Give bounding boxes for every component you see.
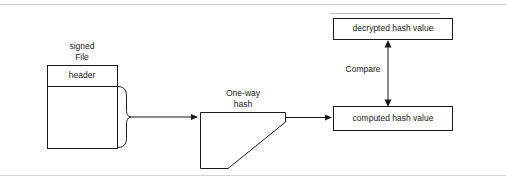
oneway-hash-label-line2: hash	[234, 99, 252, 109]
oneway-hash-label-line1: One-way	[226, 88, 260, 98]
computed-hash-value-label: computed hash value	[335, 113, 451, 124]
header-label: header	[47, 70, 117, 81]
signed-file-label-line1: signed	[69, 41, 94, 51]
signed-file-label-line2: File	[75, 52, 89, 62]
decrypted-hash-value-label: decrypted hash value	[335, 23, 451, 34]
diagram-canvas: signed File header One-way hash Compare …	[0, 0, 506, 184]
compare-double-arrow	[385, 40, 392, 107]
oneway-hash-funnel	[201, 113, 286, 169]
signed-file-label: signed File	[47, 41, 117, 62]
file-brace	[118, 87, 132, 148]
oneway-hash-label: One-way hash	[198, 88, 288, 109]
compare-label: Compare	[341, 64, 385, 75]
